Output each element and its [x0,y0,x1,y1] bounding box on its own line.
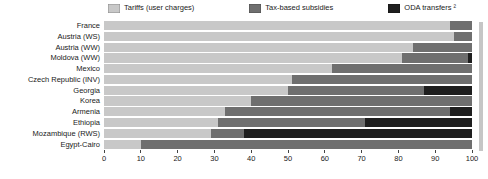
x-axis-tick-label: 60 [321,154,329,163]
x-axis-tick-mark [140,150,141,153]
bar-segment [225,107,449,116]
bar-row: France [2,21,472,30]
bar-segment [104,129,211,138]
x-axis-tick-mark [361,150,362,153]
row-label: Mozambique (RWS) [2,129,104,138]
bar-segment [251,96,472,105]
x-axis-tick-mark [324,150,325,153]
x-axis-tick-label: 20 [173,154,181,163]
bar-segment [454,32,472,41]
row-label: Austria (WS) [2,32,104,41]
bar-row: Mexico [2,64,472,73]
bar-row: Mozambique (RWS) [2,129,472,138]
stacked-bar [104,21,472,30]
stacked-bar [104,53,472,62]
x-axis: 0102030405060708090100 [104,150,472,166]
bar-segment [104,86,288,95]
legend-swatch-tariffs-icon [108,4,120,13]
scan-edge-artifact [479,22,483,151]
legend-item-tax-subsidies: Tax-based subsidies [249,3,333,13]
stacked-bar [104,32,472,41]
x-axis-tick-mark [177,150,178,153]
legend-item-oda-transfers: ODA transfers ² [388,3,456,13]
bar-segment [365,118,472,127]
stacked-bar [104,129,472,138]
x-axis-tick-label: 90 [431,154,439,163]
x-axis-tick-mark [104,150,105,153]
row-label: Austria (WW) [2,43,104,52]
row-label: Armenia [2,107,104,116]
row-label: Czech Republic (INV) [2,75,104,84]
stacked-bar [104,140,472,149]
bar-row: Armenia [2,107,472,116]
legend-swatch-oda-transfers-icon [388,4,400,13]
bar-segment [104,96,251,105]
bar-segment [104,140,141,149]
bar-segment [450,21,472,30]
stacked-bar [104,75,472,84]
x-axis-tick-mark [251,150,252,153]
x-axis-tick-label: 100 [466,154,479,163]
bar-segment [104,64,332,73]
bar-segment [104,107,225,116]
bar-row: Moldova (WW) [2,53,472,62]
x-axis-tick-mark [472,150,473,153]
legend-label-tariffs: Tariffs (user charges) [124,3,194,13]
bar-segment [402,53,468,62]
x-axis-tick-label: 0 [102,154,106,163]
bar-segment [104,53,402,62]
bar-segment [244,129,472,138]
x-axis-tick-mark [398,150,399,153]
bar-row: Austria (WW) [2,43,472,52]
bar-segment [292,75,472,84]
bar-segment [104,43,413,52]
bar-segment [218,118,365,127]
bar-segment [104,21,450,30]
bar-segment [104,32,454,41]
bar-row: Egypt-Cairo [2,140,472,149]
row-label: Egypt-Cairo [2,140,104,149]
plot-area: FranceAustria (WS)Austria (WW)Moldova (W… [2,21,472,149]
bar-segment [413,43,472,52]
bar-segment [450,107,472,116]
row-label: Mexico [2,64,104,73]
stacked-bar [104,43,472,52]
bar-segment [288,86,424,95]
legend-swatch-tax-subsidies-icon [249,4,261,13]
bar-segment [468,53,472,62]
stacked-bar [104,107,472,116]
stacked-bar [104,86,472,95]
stacked-bar [104,96,472,105]
row-label: Moldova (WW) [2,53,104,62]
bar-row: Ethiopia [2,118,472,127]
legend-label-oda-transfers: ODA transfers ² [404,3,456,13]
x-axis-tick-mark [288,150,289,153]
bar-row: Austria (WS) [2,32,472,41]
row-label: Ethiopia [2,118,104,127]
x-axis-tick-label: 10 [137,154,145,163]
bar-segment [211,129,244,138]
chart-legend: Tariffs (user charges) Tax-based subsidi… [108,3,456,13]
row-label: Georgia [2,86,104,95]
stacked-bar [104,64,472,73]
row-label: France [2,21,104,30]
legend-item-tariffs: Tariffs (user charges) [108,3,194,13]
bar-segment [104,75,292,84]
stacked-bar [104,118,472,127]
row-label: Korea [2,96,104,105]
x-axis-tick-label: 70 [357,154,365,163]
x-axis-tick-label: 40 [247,154,255,163]
bar-segment [104,118,218,127]
bar-segment [141,140,472,149]
bar-row: Czech Republic (INV) [2,75,472,84]
stacked-bar-chart-figure: Tariffs (user charges) Tax-based subsidi… [0,0,488,179]
x-axis-tick-mark [214,150,215,153]
bar-row: Korea [2,96,472,105]
bar-segment [424,86,472,95]
x-axis-tick-label: 50 [284,154,292,163]
bar-segment [332,64,472,73]
x-axis-tick-label: 30 [210,154,218,163]
x-axis-tick-mark [435,150,436,153]
x-axis-tick-label: 80 [394,154,402,163]
bar-row: Georgia [2,86,472,95]
